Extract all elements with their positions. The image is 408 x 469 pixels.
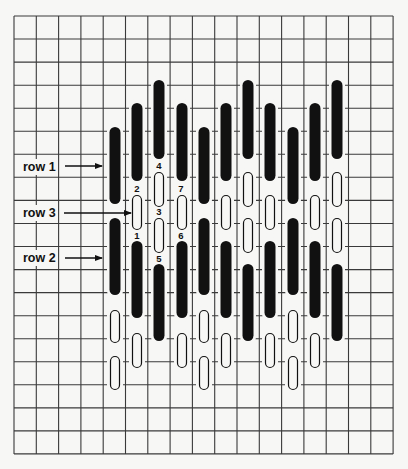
open-stitch [289,357,298,390]
open-stitch [311,334,320,368]
filled-stitch [332,80,343,159]
filled-stitch [154,264,165,341]
open-stitch [311,196,320,230]
filled-stitch [199,218,210,295]
open-stitch [333,173,342,207]
sequence-number: 7 [177,184,184,194]
filled-stitch [221,103,232,181]
sequence-number: 2 [133,184,140,194]
grid-canvas [0,0,408,469]
sequence-number: 1 [133,231,140,241]
stitch-column-8 [265,103,276,368]
filled-stitch [310,103,321,181]
filled-stitch [154,80,165,159]
filled-stitch [199,127,210,204]
stitch-diagram: row 1row 3row 2 4273165 [0,0,408,469]
row-label: row 1 [21,159,58,175]
filled-stitch [332,264,343,341]
open-stitch [289,311,298,343]
filled-stitch [110,127,121,204]
open-stitch [155,173,164,207]
open-stitch [111,311,120,343]
filled-stitch [132,103,143,181]
stitch-column-5 [199,127,210,390]
filled-stitch [265,241,276,318]
open-stitch [200,357,209,390]
open-stitch [244,173,253,207]
filled-stitch [243,264,254,341]
filled-stitch [221,241,232,318]
open-stitch [333,219,342,253]
open-stitch [222,196,231,230]
open-stitch [266,196,275,230]
row-label: row 2 [21,250,58,266]
stitch-column-9 [288,127,299,390]
open-stitch [155,219,164,253]
stitch-column-6 [221,103,232,368]
open-stitch [133,196,142,230]
sequence-number: 5 [155,254,162,264]
filled-stitch [132,241,143,318]
filled-stitch [177,241,188,318]
filled-stitch [265,103,276,181]
open-stitch [244,219,253,253]
filled-stitch [288,127,299,204]
open-stitch [266,334,275,368]
open-stitch [222,334,231,368]
filled-stitch [177,103,188,181]
sequence-number: 4 [155,161,162,171]
filled-stitch [243,80,254,159]
row-label: row 3 [21,205,58,221]
open-stitch [178,196,187,230]
sequence-number: 3 [155,207,162,217]
sequence-number: 6 [177,231,184,241]
open-stitch [133,334,142,368]
stitch-column-10 [310,103,321,368]
open-stitch [111,357,120,390]
open-stitch [200,311,209,343]
filled-stitch [288,218,299,295]
filled-stitch [110,218,121,295]
stitch-column-1 [110,127,121,390]
open-stitch [178,334,187,368]
filled-stitch [310,241,321,318]
